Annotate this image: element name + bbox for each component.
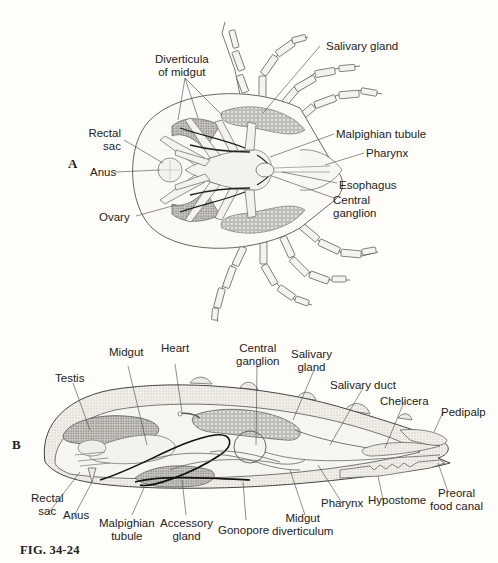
label-salivary-gland-a: Salivary gland <box>326 40 398 53</box>
label-line: gland <box>160 530 213 543</box>
label-gonopore: Gonopore <box>218 524 269 537</box>
label-chelicera: Chelicera <box>380 395 429 408</box>
label-line: Diverticula <box>155 53 209 66</box>
label-pharynx-b: Pharynx <box>321 497 363 510</box>
label-pharynx-a: Pharynx <box>366 147 408 160</box>
label-line: tubule <box>99 530 155 543</box>
label-rectal-sac-b: Rectal sac <box>31 492 64 517</box>
label-accessory-gland: Accessory gland <box>160 517 213 542</box>
figure-drawing <box>0 0 498 563</box>
label-preoral-food-canal: Preoral food canal <box>430 487 483 512</box>
label-malpighian-tubule-a: Malpighian tubule <box>336 128 426 141</box>
label-ovary: Ovary <box>99 211 130 224</box>
label-central-ganglion-b: Central ganglion <box>236 342 279 367</box>
label-salivary-gland-b: Salivary gland <box>291 348 332 373</box>
label-line: sac <box>86 140 121 153</box>
label-midgut: Midgut <box>109 346 144 359</box>
label-hypostome: Hypostome <box>368 494 426 507</box>
label-diverticula-of-midgut: Diverticula of midgut <box>155 53 209 78</box>
figure-caption: FIG. 34-24 <box>20 543 80 558</box>
panel-label-b: B <box>12 437 21 453</box>
label-testis: Testis <box>55 372 84 385</box>
label-line: Preoral <box>430 487 483 500</box>
label-line: Salivary <box>291 348 332 361</box>
label-line: gland <box>291 361 332 374</box>
label-rectal-sac-a: Rectal sac <box>86 127 121 152</box>
label-line: Rectal <box>86 127 121 140</box>
label-line: of midgut <box>155 66 209 79</box>
label-anus-a: Anus <box>90 166 116 179</box>
label-line: Accessory <box>160 517 213 530</box>
label-malpighian-tubule-b: Malpighian tubule <box>99 517 155 542</box>
label-line: Malpighian <box>99 517 155 530</box>
label-line: Midgut <box>272 512 333 525</box>
label-salivary-duct: Salivary duct <box>330 379 396 392</box>
label-midgut-diverticulum: Midgut diverticulum <box>272 512 333 537</box>
label-line: food canal <box>430 500 483 513</box>
label-line: ganglion <box>236 355 279 368</box>
label-esophagus: Esophagus <box>339 179 397 192</box>
panel-label-a: A <box>68 156 77 172</box>
label-line: Central <box>333 194 376 207</box>
label-anus-b: Anus <box>63 509 89 522</box>
label-line: diverticulum <box>272 525 333 538</box>
label-line: sac <box>31 505 64 518</box>
label-pedipalp: Pedipalp <box>441 406 486 419</box>
label-line: Central <box>236 342 279 355</box>
label-line: ganglion <box>333 207 376 220</box>
label-central-ganglion-a: Central ganglion <box>333 194 376 219</box>
label-line: Rectal <box>31 492 64 505</box>
label-heart: Heart <box>161 342 189 355</box>
